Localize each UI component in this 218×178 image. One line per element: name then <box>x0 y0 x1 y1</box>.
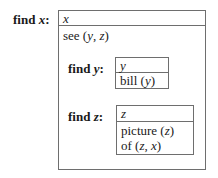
predicate-of: of <box>121 138 135 153</box>
find-keyword: find <box>68 109 94 124</box>
find-z-label: find z: <box>68 110 103 123</box>
find-y-label: find y: <box>68 62 104 75</box>
arg-z: z <box>165 123 170 138</box>
arg-y: y <box>145 73 151 88</box>
arg-x: x <box>151 138 157 153</box>
drs-conditions-y: bill (y) <box>116 73 168 87</box>
colon: : <box>99 61 103 76</box>
find-keyword: find <box>68 61 94 76</box>
arg-y: y <box>87 28 93 43</box>
find-x-label: find x: <box>13 13 50 26</box>
predicate-see: see <box>63 28 83 43</box>
find-keyword: find <box>13 12 39 27</box>
drs-box-z: z picture (z) of (z, x) <box>116 105 194 155</box>
condition-bill: bill (y) <box>120 74 168 87</box>
condition-of: of (z, x) <box>121 138 193 153</box>
condition-see: see (y, z) <box>63 29 205 42</box>
drs-universe-y: y <box>116 58 168 73</box>
drs-universe-z: z <box>117 106 193 122</box>
drs-conditions-x: see (y, z) <box>59 26 205 42</box>
arg-z: z <box>139 138 144 153</box>
condition-picture: picture (z) <box>121 123 193 138</box>
colon: : <box>45 12 49 27</box>
predicate-bill: bill <box>120 73 141 88</box>
drs-universe-x: x <box>59 11 205 26</box>
drs-conditions-z: picture (z) of (z, x) <box>117 122 193 153</box>
drs-box-y: y bill (y) <box>115 57 169 89</box>
predicate-picture: picture <box>121 123 160 138</box>
colon: : <box>99 109 103 124</box>
arg-z: z <box>99 28 104 43</box>
